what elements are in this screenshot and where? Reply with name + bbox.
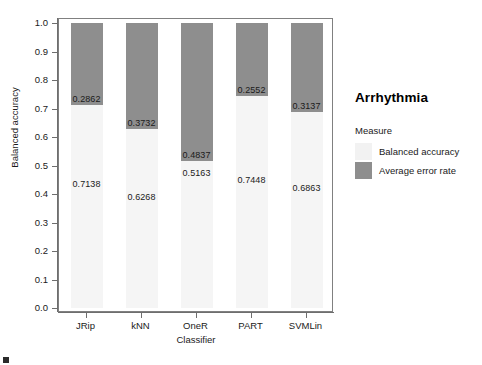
x-axis-title: Classifier <box>58 334 334 345</box>
y-tick-mark <box>52 166 57 167</box>
y-tick-label: 0.5 <box>20 160 48 171</box>
value-label-error-rate: 0.2862 <box>72 94 100 104</box>
value-label-error-rate: 0.3137 <box>292 101 320 111</box>
legend: Arrhythmia Measure Balanced accuracyAver… <box>355 90 480 180</box>
bar-segment-balanced-accuracy[interactable] <box>291 112 323 308</box>
bar-group-part[interactable]: 0.25520.7448 <box>236 19 268 313</box>
bar-segment-error-rate[interactable] <box>181 23 213 161</box>
y-tick-label: 0.3 <box>20 217 48 228</box>
page-artifact-mark <box>3 357 9 363</box>
bar-segment-error-rate[interactable] <box>126 23 158 129</box>
y-axis-title: Balanced accuracy <box>9 58 20 198</box>
y-tick-mark <box>52 80 57 81</box>
bar-group-knn[interactable]: 0.37320.6268 <box>126 19 158 313</box>
legend-swatch-balanced-accuracy <box>355 143 372 160</box>
chart-root: 0.28620.71380.37320.62680.48370.51630.25… <box>0 0 482 365</box>
y-tick-label: 0.4 <box>20 188 48 199</box>
value-label-error-rate: 0.4837 <box>182 150 210 160</box>
bar-segment-error-rate[interactable] <box>71 23 103 105</box>
plot-panel: 0.28620.71380.37320.62680.48370.51630.25… <box>58 18 333 312</box>
value-label-balanced-accuracy: 0.6863 <box>292 183 320 193</box>
y-tick-mark <box>52 223 57 224</box>
chart-title: Arrhythmia <box>355 90 480 105</box>
y-tick-label: 0.9 <box>20 46 48 57</box>
y-tick-label: 0.8 <box>20 74 48 85</box>
legend-item[interactable]: Average error rate <box>355 161 480 180</box>
y-tick-mark <box>52 52 57 53</box>
y-tick-label: 0.6 <box>20 131 48 142</box>
y-tick-mark <box>52 194 57 195</box>
x-tick-mark <box>306 313 307 318</box>
x-tick-label-oner: OneR <box>183 320 208 331</box>
y-tick-mark <box>52 23 57 24</box>
x-tick-mark <box>141 313 142 318</box>
bar-segment-balanced-accuracy[interactable] <box>71 105 103 308</box>
y-tick-label: 0.1 <box>20 274 48 285</box>
bar-group-svmlin[interactable]: 0.31370.6863 <box>291 19 323 313</box>
x-tick-label-part: PART <box>238 320 262 331</box>
y-tick-mark <box>52 251 57 252</box>
y-tick-label: 0.0 <box>20 302 48 313</box>
y-tick-label: 1.0 <box>20 17 48 28</box>
legend-title: Measure <box>355 125 480 136</box>
value-label-balanced-accuracy: 0.7448 <box>237 175 265 185</box>
legend-item[interactable]: Balanced accuracy <box>355 142 480 161</box>
y-tick-mark <box>52 137 57 138</box>
y-tick-mark <box>52 308 57 309</box>
value-label-error-rate: 0.2552 <box>237 85 265 95</box>
x-tick-mark <box>251 313 252 318</box>
x-tick-label-jrip: JRip <box>76 320 95 331</box>
bars-layer: 0.28620.71380.37320.62680.48370.51630.25… <box>59 19 332 311</box>
bar-segment-balanced-accuracy[interactable] <box>236 96 268 308</box>
x-tick-mark <box>196 313 197 318</box>
bar-group-jrip[interactable]: 0.28620.7138 <box>71 19 103 313</box>
value-label-balanced-accuracy: 0.5163 <box>182 168 210 178</box>
value-label-balanced-accuracy: 0.6268 <box>127 192 155 202</box>
legend-label: Average error rate <box>379 165 456 176</box>
y-tick-mark <box>52 109 57 110</box>
value-label-balanced-accuracy: 0.7138 <box>72 179 100 189</box>
legend-label: Balanced accuracy <box>379 146 459 157</box>
y-tick-label: 0.7 <box>20 103 48 114</box>
x-tick-label-knn: kNN <box>131 320 149 331</box>
y-tick-label: 0.2 <box>20 245 48 256</box>
y-axis-line <box>57 18 58 312</box>
legend-swatch-average-error-rate <box>355 162 372 179</box>
bar-segment-error-rate[interactable] <box>291 23 323 112</box>
value-label-error-rate: 0.3732 <box>127 118 155 128</box>
x-tick-mark <box>86 313 87 318</box>
bar-segment-balanced-accuracy[interactable] <box>126 129 158 308</box>
y-tick-mark <box>52 280 57 281</box>
bar-segment-balanced-accuracy[interactable] <box>181 161 213 308</box>
x-tick-label-svmlin: SVMLin <box>289 320 322 331</box>
bar-group-oner[interactable]: 0.48370.5163 <box>181 19 213 313</box>
legend-items: Balanced accuracyAverage error rate <box>355 142 480 180</box>
